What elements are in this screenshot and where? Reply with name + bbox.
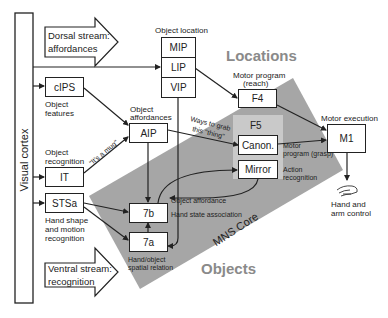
7b-box: 7b [129, 203, 168, 223]
hand-icon [337, 186, 357, 196]
m1-box: M1 [327, 124, 366, 153]
mirror-caption-2: recognition [283, 173, 317, 182]
aip-caption-2: affordances [130, 113, 172, 122]
7a-box: 7a [129, 232, 168, 252]
cips-caption-1: Object [45, 100, 68, 109]
it-caption-2: recognition [45, 157, 84, 166]
f4-caption-2: (reach) [243, 79, 268, 88]
dorsal-stream-arrow [45, 18, 118, 66]
mip-box: MIP [161, 37, 196, 58]
object-affordance-label: Object affordance [171, 196, 226, 205]
stsa-caption-2: and motion [45, 225, 85, 234]
f5-label: F5 [250, 121, 262, 130]
f4-box: F4 [238, 89, 277, 108]
cips-box: cIPS [45, 77, 84, 97]
canon-box: Canon. [238, 135, 278, 155]
lip-box: LIP [161, 57, 196, 78]
hand-state-label: Hand state association [171, 210, 242, 219]
vip-box: VIP [161, 77, 196, 98]
stsa-box: STSa [45, 193, 84, 213]
stsa-caption-1: Hand shape [45, 216, 88, 225]
visual-cortex-label: Visual cortex [20, 129, 29, 192]
canon-caption-2: program (grasp) [283, 149, 333, 158]
dorsal-stream-label-1: Dorsal stream: [48, 31, 110, 40]
object-location-label: Object location [155, 26, 208, 35]
output-label-2: arm control [331, 209, 371, 218]
it-caption-1: Object [45, 148, 68, 157]
ventral-stream-label-1: Ventral stream: [48, 264, 112, 273]
output-label-1: Hand and [331, 200, 366, 209]
m1-caption: Motor execution [321, 114, 378, 123]
stsa-caption-3: recognition [45, 234, 84, 243]
mirror-box: Mirror [238, 160, 278, 179]
cips-caption-2: features [45, 109, 74, 118]
dorsal-stream-label-2: affordances [48, 44, 97, 53]
aip-box: AIP [129, 123, 168, 143]
it-box: IT [45, 167, 84, 187]
ventral-stream-label-2: recognition [48, 277, 94, 286]
objects-label: Objects [201, 260, 256, 277]
locations-label: Locations [226, 47, 297, 64]
7a-caption-2: spatial relation [128, 263, 173, 272]
